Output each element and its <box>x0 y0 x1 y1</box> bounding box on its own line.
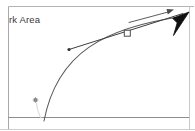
work-area-screenshot: rk Area <box>0 0 195 131</box>
drag-handle[interactable] <box>124 30 130 36</box>
tangent-endpoint-dot[interactable] <box>67 48 70 51</box>
work-area-label: rk Area <box>9 14 40 25</box>
origin-marker[interactable] <box>33 97 39 103</box>
